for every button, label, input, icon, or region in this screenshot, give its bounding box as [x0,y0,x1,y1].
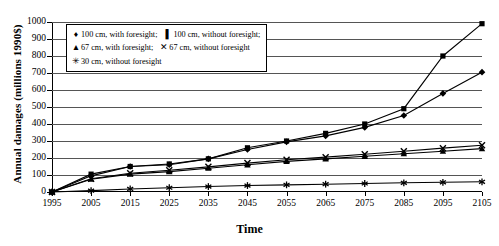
x-axis-tick [482,192,483,196]
data-point [323,131,328,136]
chart-figure: Annual damages (millions 1990$) Time 010… [0,0,499,246]
data-point [479,69,486,76]
x-axis-title: Time [0,222,499,237]
x-axis-tick-label: 2035 [188,198,228,208]
x-axis-tick-label: 1995 [32,198,72,208]
data-point [401,106,406,111]
legend-marker-icon: ✳ [71,55,81,68]
legend-label: 100 cm, without foresight; [173,29,260,41]
data-point [167,161,172,166]
x-axis-tick-label: 2065 [306,198,346,208]
x-axis-tick [326,192,327,196]
legend-marker-icon: ♦ [71,28,81,41]
y-axis-tick-label: 300 [6,135,46,145]
y-axis-tick-label: 200 [6,152,46,162]
y-axis-tick-label: 400 [6,118,46,128]
y-axis-tick-label: 500 [6,101,46,111]
x-axis-tick [130,192,131,196]
data-point [440,90,447,97]
y-axis-tick-label: 800 [6,50,46,60]
x-axis-tick [404,192,405,196]
x-axis-tick-label: 2095 [423,198,463,208]
series-4 [49,142,485,195]
data-point [245,145,250,150]
x-axis-tick [247,192,248,196]
y-axis-tick-label: 700 [6,67,46,77]
y-axis-tick-label: 0 [6,186,46,196]
x-axis-tick [169,192,170,196]
legend-row: ♦100 cm, with foresight;▌100 cm, without… [71,28,260,41]
x-axis-tick-label: 2025 [149,198,189,208]
data-point [128,164,133,169]
legend-label: 30 cm, without foresight [81,56,162,68]
data-point [284,138,289,143]
legend-row: ✳30 cm, without foresight [71,55,260,68]
x-axis-tick-label: 2005 [71,198,111,208]
x-axis-tick [365,192,366,196]
data-point [401,112,408,119]
legend-marker-icon: ✕ [159,41,169,54]
data-point [206,156,211,161]
x-axis-tick-label: 2075 [345,198,385,208]
x-axis-tick-label: 2085 [384,198,424,208]
series-5 [49,178,485,195]
data-point [440,53,445,58]
x-axis-tick-label: 2105 [462,198,499,208]
data-point [479,21,484,26]
x-axis-tick-label: 2055 [267,198,307,208]
chart-legend: ♦100 cm, with foresight;▌100 cm, without… [66,24,267,72]
x-axis-tick [287,192,288,196]
legend-label: 67 cm, with foresight; [81,42,153,54]
legend-row: ▲67 cm, with foresight;✕67 cm, without f… [71,41,260,54]
series-line [52,182,482,192]
x-axis-tick [443,192,444,196]
x-axis-tick-label: 2015 [110,198,150,208]
legend-marker-icon: ▲ [71,41,81,54]
legend-label: 67 cm, without foresight [169,42,250,54]
y-axis-tick-label: 900 [6,33,46,43]
legend-marker-icon: ▌ [163,28,173,41]
x-axis-tick-label: 2045 [227,198,267,208]
y-axis-tick-label: 1000 [6,16,46,26]
y-axis-tick-label: 100 [6,169,46,179]
y-axis-tick-label: 600 [6,84,46,94]
data-point [362,121,367,126]
x-axis-tick [208,192,209,196]
legend-label: 100 cm, with foresight; [81,29,157,41]
